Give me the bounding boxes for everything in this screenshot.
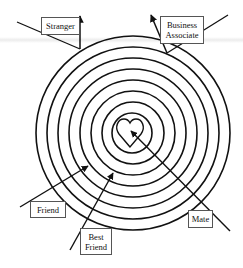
label-mate-text: Mate bbox=[192, 214, 209, 224]
label-stranger: Stranger bbox=[41, 17, 80, 35]
label-best-friend-text: Best Friend bbox=[81, 232, 111, 252]
label-business-associate-text: Business Associate bbox=[162, 20, 202, 40]
label-friend: Friend bbox=[30, 201, 66, 218]
label-best-friend: Best Friend bbox=[80, 228, 112, 255]
label-stranger-text: Stranger bbox=[46, 21, 75, 31]
label-business-associate: Business Associate bbox=[160, 16, 204, 44]
label-friend-text: Friend bbox=[37, 205, 59, 215]
mate-arrow bbox=[131, 131, 230, 231]
heart-icon bbox=[117, 119, 144, 147]
label-mate: Mate bbox=[188, 210, 213, 228]
